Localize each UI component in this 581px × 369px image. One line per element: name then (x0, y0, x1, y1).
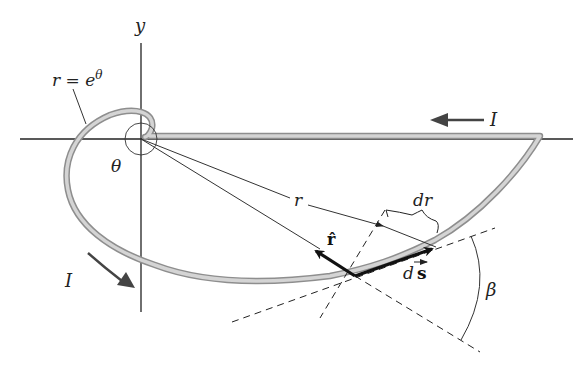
radius-line-r-cont (308, 205, 383, 226)
current-arrow-bottom-left (88, 253, 135, 288)
y-axis-label: y (134, 15, 146, 36)
r-hat-label: r̂ (327, 230, 336, 249)
radius-line-r-end (383, 226, 436, 247)
ds-label: ds (403, 263, 426, 283)
dr-label: dr (413, 190, 433, 210)
current-arrow-top (430, 113, 484, 127)
curve-label-leader (73, 89, 86, 124)
radius-label: r (294, 190, 303, 210)
dashed-radial-extension (355, 276, 480, 352)
radius-line-r (141, 139, 290, 198)
beta-angle-arc (461, 236, 480, 340)
current-label-top: I (489, 109, 498, 130)
wire-loop (67, 111, 540, 281)
dashed-tangent-line (232, 228, 495, 322)
theta-label: θ (111, 156, 121, 176)
spiral-current-loop-diagram: y r = eθ θ r dr r̂ ds β I I (0, 0, 581, 369)
dr-brace (386, 210, 438, 233)
beta-label: β (485, 279, 496, 300)
current-label-bottom-left: I (64, 270, 73, 291)
curve-equation-label: r = eθ (52, 68, 103, 90)
